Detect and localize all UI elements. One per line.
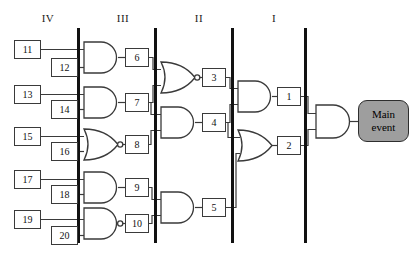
level-label-iii: III: [108, 12, 138, 24]
gate-nor-8-bubble: [118, 142, 123, 147]
event-box-2[interactable]: 2: [277, 136, 301, 155]
level-label-i: I: [259, 12, 289, 24]
event-box-11[interactable]: 11: [14, 40, 41, 59]
event-box-8[interactable]: 8: [125, 135, 149, 154]
event-box-3[interactable]: 3: [202, 68, 226, 87]
gate-and-6[interactable]: [84, 42, 117, 73]
event-box-4[interactable]: 4: [202, 113, 226, 132]
event-box-18[interactable]: 18: [51, 185, 78, 204]
level-label-ii: II: [184, 12, 214, 24]
level-label-iv: IV: [33, 12, 63, 24]
gate-nor-3[interactable]: [161, 62, 195, 93]
gate-or-2[interactable]: [238, 130, 272, 161]
event-box-20[interactable]: 20: [51, 226, 78, 245]
event-box-7[interactable]: 7: [125, 93, 149, 112]
gate-and-5[interactable]: [161, 192, 194, 223]
event-box-13[interactable]: 13: [14, 85, 41, 104]
event-box-14[interactable]: 14: [51, 100, 78, 119]
event-box-12[interactable]: 12: [51, 58, 78, 77]
gate-and-7[interactable]: [84, 87, 117, 118]
gate-nor-8[interactable]: [84, 129, 118, 160]
gate-and-main[interactable]: [316, 105, 350, 138]
main-event-line-1: Main: [372, 108, 395, 121]
event-box-6[interactable]: 6: [125, 48, 149, 67]
event-box-9[interactable]: 9: [125, 178, 149, 197]
separator-bar-ii-i: [231, 28, 234, 243]
event-box-10[interactable]: 10: [125, 214, 149, 233]
gate-nand-10-bubble: [118, 221, 123, 226]
main-event-box[interactable]: Main event: [358, 100, 409, 142]
event-box-1[interactable]: 1: [277, 87, 301, 106]
gate-nor-3-bubble: [195, 75, 200, 80]
event-box-17[interactable]: 17: [14, 170, 41, 189]
separator-bar-iii-ii: [154, 28, 157, 243]
gate-and-9[interactable]: [84, 172, 117, 203]
event-box-19[interactable]: 19: [14, 210, 41, 229]
separator-bar-i-top: [304, 28, 307, 243]
gate-and-4[interactable]: [161, 107, 194, 138]
event-box-5[interactable]: 5: [202, 198, 226, 217]
event-box-16[interactable]: 16: [51, 142, 78, 161]
fault-tree-diagram: IV III II I 11 12 13 14 15 16 17 18 19 2…: [0, 0, 420, 268]
event-box-15[interactable]: 15: [14, 127, 41, 146]
gate-and-1[interactable]: [238, 81, 271, 112]
main-event-line-2: event: [372, 121, 396, 134]
gate-nand-10[interactable]: [84, 208, 117, 239]
